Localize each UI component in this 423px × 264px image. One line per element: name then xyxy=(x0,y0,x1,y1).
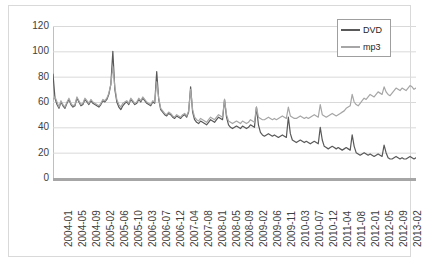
x-axis-tick-label: 2012-01 xyxy=(371,210,381,247)
x-axis-tick-label: 2008-09 xyxy=(245,210,255,247)
legend-swatch-dvd xyxy=(341,29,360,31)
y-axis-tick-label: 60 xyxy=(9,97,49,107)
y-axis-tick-label: 100 xyxy=(9,46,49,56)
x-axis-tick-label: 2013-02 xyxy=(413,210,423,247)
x-axis-tick-label: 2006-07 xyxy=(162,210,172,247)
x-axis-tick-label: 2011-04 xyxy=(343,211,353,247)
x-axis-tick-label: 2007-08 xyxy=(204,210,214,247)
x-axis-labels: 2004-012004-052004-092005-022005-062005-… xyxy=(53,183,416,253)
x-axis-tick-label: 2010-07 xyxy=(315,210,325,247)
chart-frame: 120100806040200 2004-012004-052004-09200… xyxy=(8,5,411,257)
y-axis-tick-label: 40 xyxy=(9,122,49,132)
x-axis-tick-label: 2004-09 xyxy=(92,210,102,247)
x-axis-tick-label: 2006-03 xyxy=(148,210,158,247)
legend-entry-dvd[interactable]: DVD xyxy=(341,25,389,35)
x-axis-tick-label: 2009-11 xyxy=(287,211,297,247)
x-axis-tick-label: 2009-02 xyxy=(259,210,269,247)
x-axis-tick-label: 2005-02 xyxy=(106,210,116,247)
x-axis-tick-label: 2006-12 xyxy=(176,210,186,247)
x-axis-tick-label: 2010-12 xyxy=(329,210,339,247)
x-axis-tick-label: 2005-06 xyxy=(120,210,130,247)
y-axis-tick-label: 80 xyxy=(9,72,49,82)
x-axis-tick-label: 2010-03 xyxy=(301,210,311,247)
x-axis-tick-label: 2009-06 xyxy=(273,210,283,247)
chart-legend: DVDmp3 xyxy=(337,19,391,57)
legend-entry-mp3[interactable]: mp3 xyxy=(341,42,389,52)
x-axis-tick-label: 2011-08 xyxy=(357,211,367,247)
series-line-dvd xyxy=(53,51,416,159)
y-axis-labels: 120100806040200 xyxy=(9,6,49,198)
x-axis-tick-label: 2004-05 xyxy=(78,210,88,247)
x-axis-tick-label: 2007-04 xyxy=(190,210,200,247)
y-axis-tick-label: 0 xyxy=(9,173,49,183)
y-axis-tick-label: 20 xyxy=(9,148,49,158)
legend-label-dvd: DVD xyxy=(363,25,382,35)
x-axis-tick-label: 2008-05 xyxy=(232,210,242,247)
x-axis-line xyxy=(53,178,416,181)
x-axis-tick-label: 2008-01 xyxy=(218,210,228,247)
legend-swatch-mp3 xyxy=(341,46,360,48)
series-line-mp3 xyxy=(53,67,416,124)
y-axis-tick-label: 120 xyxy=(9,21,49,31)
x-axis-tick-label: 2005-10 xyxy=(134,210,144,247)
legend-label-mp3: mp3 xyxy=(363,42,381,52)
x-axis-tick-label: 2012-09 xyxy=(399,210,409,247)
x-axis-tick-label: 2004-01 xyxy=(64,210,74,247)
x-axis-tick-label: 2012-05 xyxy=(385,210,395,247)
